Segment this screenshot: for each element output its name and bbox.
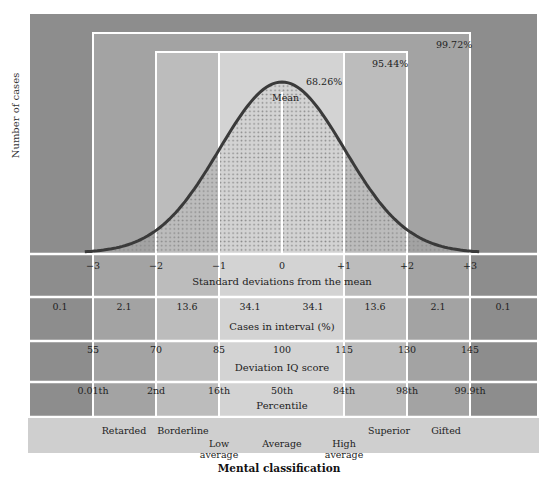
cases-value: 34.1 bbox=[239, 301, 260, 312]
percentile-value: 0.01th bbox=[77, 385, 108, 396]
pct-68-label: 68.26% bbox=[306, 76, 342, 87]
iq-value: 100 bbox=[273, 344, 291, 355]
iq-value: 145 bbox=[461, 344, 479, 355]
class-low-average-line2: average bbox=[200, 449, 239, 460]
sd-tick: +3 bbox=[463, 260, 477, 271]
class-superior: Superior bbox=[368, 425, 410, 436]
class-high-average-line1: High bbox=[325, 438, 364, 449]
class-high-average-line2: average bbox=[325, 449, 364, 460]
sd-tick: −3 bbox=[86, 260, 100, 271]
mean-label: Mean bbox=[272, 92, 299, 103]
iq-value: 85 bbox=[213, 344, 225, 355]
class-retarded: Retarded bbox=[102, 425, 147, 436]
normal-curve-diagram bbox=[0, 0, 550, 497]
iq-value: 130 bbox=[398, 344, 416, 355]
class-low-average-line1: Low bbox=[200, 438, 239, 449]
percentile-row-title: Percentile bbox=[256, 400, 307, 411]
percentile-value: 16th bbox=[208, 385, 230, 396]
iq-value: 55 bbox=[87, 344, 99, 355]
sd-tick: −1 bbox=[212, 260, 226, 271]
cases-value: 0.1 bbox=[495, 301, 510, 312]
cases-value: 13.6 bbox=[364, 301, 385, 312]
class-borderline: Borderline bbox=[157, 425, 208, 436]
sd-tick: +2 bbox=[400, 260, 414, 271]
percentile-value: 2nd bbox=[147, 385, 165, 396]
cases-value: 2.1 bbox=[116, 301, 131, 312]
mental-classification-title: Mental classification bbox=[218, 462, 341, 474]
pct-99-label: 99.72% bbox=[436, 39, 472, 50]
percentile-value: 98th bbox=[396, 385, 418, 396]
class-low-average: Low average bbox=[200, 438, 239, 460]
iq-value: 70 bbox=[150, 344, 162, 355]
class-gifted: Gifted bbox=[431, 425, 461, 436]
sd-tick: −2 bbox=[149, 260, 163, 271]
iq-row-title: Deviation IQ score bbox=[235, 362, 329, 373]
sd-row-title: Standard deviations from the mean bbox=[192, 276, 372, 287]
pct-95-label: 95.44% bbox=[372, 58, 408, 69]
class-high-average: High average bbox=[325, 438, 364, 460]
cases-value: 13.6 bbox=[176, 301, 197, 312]
percentile-value: 50th bbox=[271, 385, 293, 396]
sd-tick: +1 bbox=[337, 260, 351, 271]
cases-row-title: Cases in interval (%) bbox=[229, 321, 334, 332]
class-average: Average bbox=[262, 438, 301, 449]
cases-value: 0.1 bbox=[52, 301, 67, 312]
percentile-value: 99.9th bbox=[454, 385, 485, 396]
cases-value: 34.1 bbox=[302, 301, 323, 312]
cases-value: 2.1 bbox=[430, 301, 445, 312]
sd-tick: 0 bbox=[279, 260, 285, 271]
iq-value: 115 bbox=[335, 344, 353, 355]
percentile-value: 84th bbox=[333, 385, 355, 396]
